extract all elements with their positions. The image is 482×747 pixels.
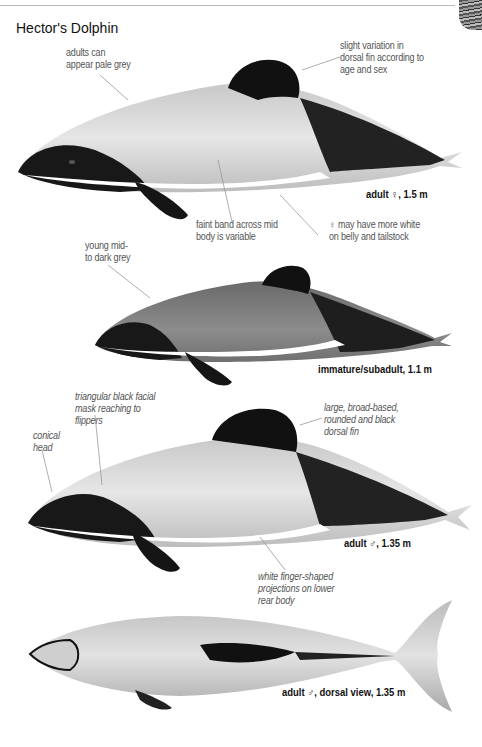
annotation-line: white finger-shaped — [258, 571, 334, 583]
annotation-line: to dark grey — [85, 252, 130, 264]
annotation-line: dorsal fin — [324, 426, 399, 438]
annotation-line: mask reaching to — [75, 403, 155, 415]
annotation-line: appear pale grey — [66, 59, 131, 71]
annotation-line: slight variation in — [340, 40, 424, 52]
annotation-line: rounded and black — [324, 414, 399, 426]
annotation-line: conical — [33, 430, 60, 442]
annotation-faint-band: faint band across mid body is variable — [196, 219, 278, 243]
annotation-line: adults can — [66, 47, 131, 59]
annotation-pale-grey: adults can appear pale grey — [66, 47, 131, 71]
annotation-line: ♀ may have more white — [329, 219, 420, 231]
caption-adult-male: adult ♂, 1.35 m — [344, 537, 411, 549]
annotation-dorsal-fin: large, broad-based, rounded and black do… — [324, 402, 399, 438]
caption-immature: immature/subadult, 1.1 m — [318, 363, 432, 375]
annotation-line: young mid- — [85, 240, 130, 252]
annotation-line: projections on lower — [258, 583, 334, 595]
annotation-conical-head: conical head — [33, 430, 60, 454]
annotation-line: on belly and tailstock — [329, 231, 420, 243]
annotation-female-white: ♀ may have more white on belly and tails… — [329, 219, 420, 243]
annotation-finger-projections: white finger-shaped projections on lower… — [258, 571, 334, 607]
annotation-line: triangular black facial — [75, 391, 155, 403]
annotation-line: head — [33, 442, 60, 454]
caption-adult-female: adult ♀, 1.5 m — [366, 188, 428, 200]
annotation-line: flippers — [75, 415, 155, 427]
annotation-line: rear body — [258, 595, 334, 607]
annotation-line: dorsal fin according to — [340, 52, 424, 64]
annotation-dorsal-variation: slight variation in dorsal fin according… — [340, 40, 424, 76]
annotation-facial-mask: triangular black facial mask reaching to… — [75, 391, 155, 427]
caption-dorsal-view: adult ♂, dorsal view, 1.35 m — [282, 686, 405, 698]
annotation-line: large, broad-based, — [324, 402, 399, 414]
annotation-line: faint band across mid — [196, 219, 278, 231]
annotation-young-grey: young mid- to dark grey — [85, 240, 130, 264]
annotation-line: age and sex — [340, 64, 424, 76]
annotation-line: body is variable — [196, 231, 278, 243]
